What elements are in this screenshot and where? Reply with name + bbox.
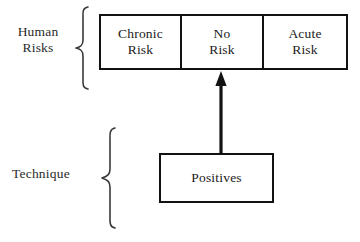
upward-arrow-icon <box>212 69 230 155</box>
risk-cell-acute-risk[interactable]: Acute Risk <box>262 16 346 68</box>
risk-cell-chronic-risk[interactable]: Chronic Risk <box>101 16 180 68</box>
group-label-technique: Technique <box>2 166 94 182</box>
risk-cell-no-risk[interactable]: No Risk <box>180 16 262 68</box>
curly-brace-icon-technique <box>96 126 122 230</box>
technique-box-positives[interactable]: Positives <box>159 153 274 203</box>
risk-category-row: Chronic Risk No Risk Acute Risk <box>99 14 348 70</box>
diagram-canvas: Human Risks Chronic Risk No Risk Acute R… <box>0 0 360 242</box>
group-label-human-risks: Human Risks <box>2 24 74 56</box>
curly-brace-icon-human-risks <box>70 5 96 91</box>
